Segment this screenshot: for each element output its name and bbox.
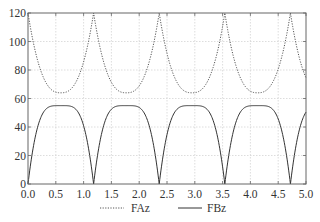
legend: FAz FBz	[100, 202, 226, 214]
series-faz-line	[28, 13, 306, 93]
x-tick-label: 1.5	[104, 188, 119, 200]
x-axis-tick-labels: 0.00.51.01.52.02.53.03.54.04.55.0	[21, 188, 314, 200]
y-tick-label: 120	[9, 7, 27, 19]
y-tick-label: 100	[9, 36, 27, 48]
x-tick-label: 4.0	[243, 188, 258, 200]
x-tick-label: 2.0	[132, 188, 147, 200]
x-tick-label: 2.5	[160, 188, 175, 200]
y-tick-label: 0	[20, 178, 26, 190]
y-tick-label: 80	[15, 64, 27, 76]
y-axis-tick-labels: 020406080100120	[9, 7, 27, 190]
x-tick-label: 3.0	[188, 188, 203, 200]
y-tick-label: 60	[15, 93, 27, 105]
x-tick-label: 0.5	[49, 188, 64, 200]
legend-label-faz: FAz	[131, 202, 150, 214]
y-tick-label: 40	[15, 121, 27, 133]
grid-lines	[28, 13, 306, 184]
x-tick-label: 3.5	[215, 188, 230, 200]
line-chart: 0.00.51.01.52.02.53.03.54.04.55.0 020406…	[0, 0, 320, 222]
x-tick-label: 4.5	[271, 188, 286, 200]
legend-label-fbz: FBz	[207, 202, 226, 214]
x-tick-label: 5.0	[299, 188, 314, 200]
x-tick-label: 1.0	[76, 188, 91, 200]
y-tick-label: 20	[15, 150, 27, 162]
